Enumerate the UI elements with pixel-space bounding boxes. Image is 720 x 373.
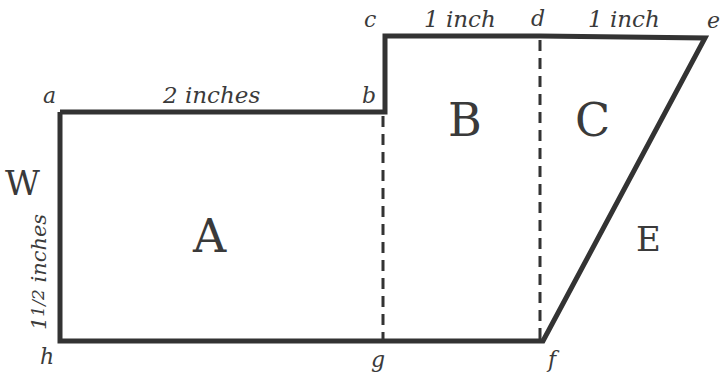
dimension-ah-frac: 1/2 bbox=[28, 289, 48, 316]
vertex-a: a bbox=[43, 83, 56, 108]
vertex-d: d bbox=[531, 6, 545, 31]
dimension-de: 1 inch bbox=[588, 6, 660, 32]
svg-text:11/2 inches: 11/2 inches bbox=[27, 214, 51, 330]
dimension-ah-whole: 1 bbox=[27, 317, 51, 330]
region-A: A bbox=[192, 209, 227, 263]
vertex-b: b bbox=[362, 83, 376, 108]
vertex-g: g bbox=[371, 347, 385, 372]
dimension-cd: 1 inch bbox=[424, 6, 496, 32]
dimension-ah-unit: inches bbox=[27, 214, 51, 290]
region-C: C bbox=[575, 93, 610, 147]
composite-shape-diagram: a b c d e f g h A B C W E 2 inches 1 inc… bbox=[0, 0, 720, 373]
region-B: B bbox=[448, 93, 482, 147]
vertex-e: e bbox=[707, 8, 720, 33]
vertex-c: c bbox=[364, 7, 376, 32]
label-E: E bbox=[636, 219, 661, 259]
dimension-ab: 2 inches bbox=[162, 82, 260, 108]
vertex-f: f bbox=[546, 347, 560, 372]
label-W: W bbox=[5, 163, 40, 203]
dimension-ah: 11/2 inches bbox=[27, 214, 51, 330]
vertex-h: h bbox=[40, 344, 54, 369]
